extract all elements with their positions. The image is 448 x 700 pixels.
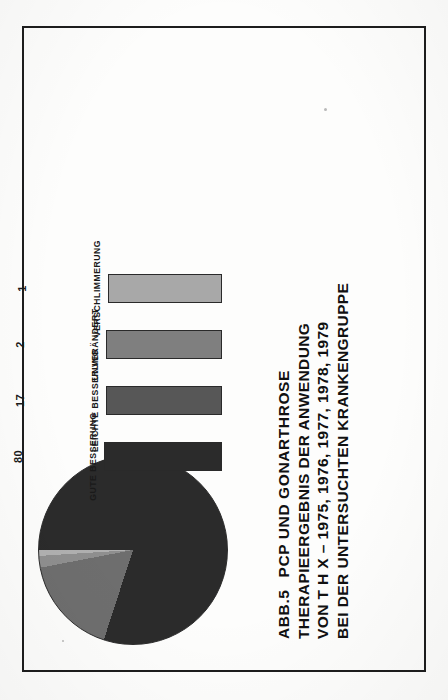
bar-rect-verschlimmerung [108,274,222,303]
pie-chart-circle [38,455,228,645]
scan-speck [324,108,327,111]
pie-chart [38,455,228,645]
figure-content-rotated: % 80 GUTE BESSERUNG 17 LEICHTE BESSERUNG… [34,39,414,659]
bar-chart: % 80 GUTE BESSERUNG 17 LEICHTE BESSERUNG… [46,171,222,471]
caption-line-2: THERAPIEERGEBNIS DER ANWENDUNG [294,59,314,639]
bar-rect-gute-besserung [104,442,222,471]
caption-line-1-text: PCP UND GONARTHROSE [275,370,292,577]
bar-value-leichte-besserung: 17 [14,394,26,407]
bar-rect-unveraendert [106,330,222,359]
bar-value-verschlimmerung: 1 [16,285,28,291]
bar-value-gute-besserung: 80 [12,450,24,463]
bar-column-leichte-besserung: 17 LEICHTE BESSERUNG [106,386,222,415]
caption-line-3: VON T H X – 1975, 1976, 1977, 1978, 1979 [313,59,333,639]
bar-rect-leichte-besserung [106,386,222,415]
figure-number: ABB.5 [275,589,292,639]
caption-line-1: ABB.5PCP UND GONARTHROSE [274,59,294,639]
bar-label-verschlimmerung: VERSCHLIMMERUNG [92,240,102,337]
bar-column-unveraendert: 2 UNVERÄNDERT [106,330,222,359]
bar-column-gute-besserung: 80 GUTE BESSERUNG [104,442,222,471]
scanned-page: % 80 GUTE BESSERUNG 17 LEICHTE BESSERUNG… [0,0,448,700]
bar-value-unveraendert: 2 [14,341,26,347]
figure-border-frame: % 80 GUTE BESSERUNG 17 LEICHTE BESSERUNG… [22,26,426,672]
scan-speck [62,640,64,642]
caption-line-4: BEI DER UNTERSUCHTEN KRANKENGRUPPE [333,59,353,639]
figure-caption: ABB.5PCP UND GONARTHROSE THERAPIEERGEBNI… [274,59,352,639]
bar-column-verschlimmerung: 1 VERSCHLIMMERUNG [108,274,222,303]
